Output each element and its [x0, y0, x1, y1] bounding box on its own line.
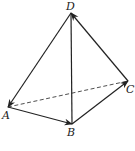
- edge-ab-vector: [8, 107, 72, 124]
- edge-ac: [8, 81, 128, 107]
- edge-db: [71, 13, 72, 124]
- edge-da-vector: [8, 13, 71, 107]
- tetrahedron-diagram: ABCD: [0, 0, 135, 151]
- edges: [8, 13, 128, 124]
- vertex-label-a: A: [1, 109, 10, 122]
- edge-cd-vector: [71, 13, 128, 81]
- vertex-labels: ABCD: [1, 0, 135, 139]
- vertex-label-d: D: [65, 0, 75, 13]
- vertex-label-c: C: [126, 83, 135, 96]
- vertex-label-b: B: [66, 126, 75, 139]
